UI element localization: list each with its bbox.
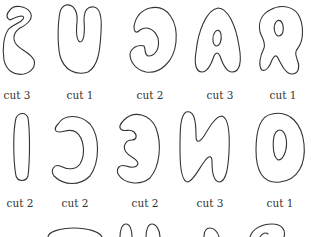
letter-a-shape — [195, 8, 240, 72]
partial-shape-1 — [48, 228, 102, 237]
letter-cutout-sheet: cut 3 cut 1 cut 2 cut 3 cut 1 cut 2 cut … — [0, 0, 311, 237]
letter-c-shape — [52, 117, 97, 184]
partial-shape-3 — [204, 228, 219, 237]
partial-shape-2 — [120, 224, 160, 237]
letter-i-shape — [14, 114, 30, 181]
piece-label: cut 2 — [132, 198, 159, 209]
letter-n-shape — [180, 112, 229, 182]
piece-label: cut 2 — [62, 198, 89, 209]
letter-o-shape — [256, 113, 304, 182]
piece-label: cut 3 — [197, 198, 224, 209]
letter-g-shape — [130, 7, 176, 72]
piece-label: cut 2 — [137, 90, 164, 101]
letter-s-shape — [3, 6, 34, 74]
piece-label: cut 2 — [7, 198, 34, 209]
piece-label: cut 1 — [270, 90, 297, 101]
piece-label: cut 3 — [207, 90, 234, 101]
letter-r-shape — [259, 7, 302, 74]
piece-label: cut 1 — [67, 90, 94, 101]
piece-label: cut 3 — [4, 90, 31, 101]
letter-e-shape — [117, 114, 159, 182]
letter-u-shape — [58, 5, 101, 73]
piece-label: cut 1 — [267, 198, 294, 209]
partial-shape-4 — [250, 224, 285, 237]
